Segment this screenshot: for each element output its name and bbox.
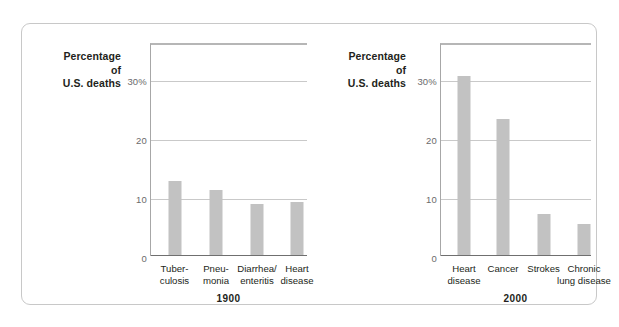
x-axis-label-line-1: Pneu-	[203, 263, 229, 275]
x-axis-label: Cancer	[488, 263, 519, 275]
plot-area-1900: 30%20100 Tuber-culosisPneu-moniaDiarrhea…	[150, 43, 307, 256]
y-tick-label: 20	[426, 134, 437, 145]
x-axis-label-line-1: Heart	[280, 263, 313, 275]
plot-wrap-2000: 30%20100 HeartdiseaseCancerStrokesChroni…	[411, 43, 591, 277]
x-axis-label-line-2: disease	[280, 275, 313, 287]
bar-group-2000: HeartdiseaseCancerStrokesChroniclung dis…	[442, 45, 591, 255]
y-axis-caption-line-1: Percentage	[314, 50, 406, 64]
x-axis-label: Strokes	[527, 263, 560, 275]
bar[interactable]	[578, 224, 591, 255]
plot-wrap-1900: 30%20100 Tuber-culosisPneu-moniaDiarrhea…	[121, 43, 307, 277]
x-axis-label: Heartdisease	[447, 263, 480, 286]
panel-year-label-2000: 2000	[440, 293, 591, 304]
bar-slot: Tuber-culosis	[152, 45, 197, 255]
chart-panel-2000: Percentage of U.S. deaths 30%20100 Heart…	[314, 24, 597, 304]
y-axis-caption-line-2: of	[29, 64, 121, 78]
chart-panel-1900: Percentage of U.S. deaths 30%20100 Tuber…	[22, 24, 314, 304]
x-axis-label-line-2: disease	[447, 275, 480, 287]
y-axis-caption-line-3: U.S. deaths	[29, 77, 121, 91]
bar-group-1900: Tuber-culosisPneu-moniaDiarrhea/enteriti…	[152, 45, 307, 255]
plot-area-2000: 30%20100 HeartdiseaseCancerStrokesChroni…	[440, 43, 591, 256]
bar[interactable]	[168, 181, 181, 255]
y-axis-caption: Percentage of U.S. deaths	[314, 50, 406, 91]
x-axis-label-line-2: enteritis	[237, 275, 276, 287]
y-axis-caption-line-3: U.S. deaths	[314, 77, 406, 91]
x-axis-label-line-1: Cancer	[488, 263, 519, 275]
bar[interactable]	[251, 204, 264, 255]
x-axis-line-1900	[151, 255, 307, 256]
x-axis-label: Chroniclung disease	[557, 263, 611, 286]
bar-slot: Heartdisease	[276, 45, 318, 255]
bar[interactable]	[210, 190, 223, 255]
figure-frame: Percentage of U.S. deaths 30%20100 Tuber…	[21, 23, 597, 305]
x-axis-line-2000	[441, 255, 591, 256]
y-axis-caption: Percentage of U.S. deaths	[29, 50, 121, 91]
x-axis-label-line-1: Strokes	[527, 263, 560, 275]
y-tick-label: 0	[432, 253, 437, 264]
bar[interactable]	[291, 202, 304, 255]
y-axis-caption-line-2: of	[314, 64, 406, 78]
y-axis-caption-line-1: Percentage	[29, 50, 121, 64]
bar-slot: Pneu-monia	[195, 45, 237, 255]
bar-slot: Strokes	[522, 45, 565, 255]
panel-year-label-1900: 1900	[150, 293, 307, 304]
x-axis-label: Tuber-culosis	[160, 263, 189, 286]
bar[interactable]	[458, 76, 471, 255]
x-axis-label: Pneu-monia	[203, 263, 229, 286]
x-axis-label-line-1: Heart	[447, 263, 480, 275]
x-axis-label-line-1: Tuber-	[160, 263, 189, 275]
bar-slot: Diarrhea/enteritis	[235, 45, 279, 255]
bar[interactable]	[497, 119, 510, 255]
y-tick-label: 30%	[417, 75, 437, 86]
bar-slot: Heartdisease	[442, 45, 486, 255]
bar[interactable]	[537, 214, 550, 255]
y-tick-label: 10	[426, 193, 437, 204]
y-tick-label: 20	[136, 134, 147, 145]
x-axis-label-line-2: culosis	[160, 275, 189, 287]
x-axis-label-line-2: lung disease	[557, 275, 611, 287]
y-tick-label: 30%	[127, 75, 147, 86]
x-axis-label-line-2: monia	[203, 275, 229, 287]
x-axis-label: Diarrhea/enteritis	[237, 263, 276, 286]
y-tick-label: 0	[142, 253, 147, 264]
x-axis-label-line-1: Chronic	[557, 263, 611, 275]
x-axis-label-line-1: Diarrhea/	[237, 263, 276, 275]
y-tick-label: 10	[136, 193, 147, 204]
bar-slot: Chroniclung disease	[562, 45, 606, 255]
x-axis-label: Heartdisease	[280, 263, 313, 286]
bar-slot: Cancer	[482, 45, 524, 255]
